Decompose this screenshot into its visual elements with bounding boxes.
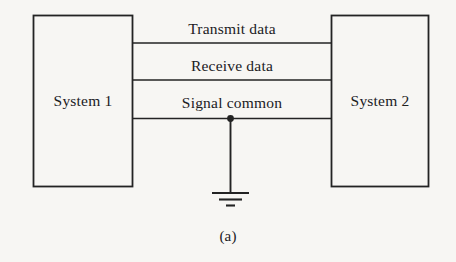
receive-data-label: Receive data bbox=[133, 57, 331, 75]
system-2-label: System 2 bbox=[331, 92, 429, 110]
figure-container: System 1 System 2 Transmit data Receive … bbox=[0, 0, 456, 262]
signal-common-junction-dot bbox=[227, 115, 234, 122]
system-1-label: System 1 bbox=[33, 92, 133, 110]
figure-caption: (a) bbox=[178, 228, 278, 245]
transmit-data-label: Transmit data bbox=[133, 20, 331, 38]
signal-common-label: Signal common bbox=[133, 94, 331, 112]
diagram-canvas bbox=[0, 0, 456, 262]
